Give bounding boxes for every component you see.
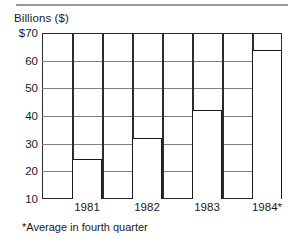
x-tick-label-1984: 1984* — [252, 201, 282, 213]
bar-1983 — [192, 110, 222, 199]
plot-area — [42, 33, 282, 199]
y-tick-label-40: 40 — [25, 110, 38, 122]
x-tick-label-1982: 1982 — [134, 201, 160, 213]
x-axis-tick-labels: 1981198219831984* — [42, 201, 282, 217]
y-tick-label-60: 60 — [25, 55, 38, 67]
chart-figure: Billions ($) 102030405060$70 19811982198… — [0, 0, 295, 245]
y-tick-label-20: 20 — [25, 165, 38, 177]
top-divider-rule — [16, 4, 288, 6]
chart-footnote: *Average in fourth quarter — [22, 221, 148, 233]
column-separator-6 — [222, 33, 224, 199]
x-tick-label-1983: 1983 — [194, 201, 220, 213]
bar-1984 — [252, 50, 282, 199]
y-axis-tick-labels: 102030405060$70 — [0, 33, 38, 199]
bar-1981 — [72, 159, 102, 199]
y-tick-label-30: 30 — [25, 138, 38, 150]
y-tick-label-10: 10 — [25, 193, 38, 205]
x-tick-label-1981: 1981 — [74, 201, 100, 213]
column-separator-4 — [162, 33, 164, 199]
y-tick-label-50: 50 — [25, 82, 38, 94]
bar-1982 — [132, 138, 162, 199]
y-axis-title: Billions ($) — [14, 12, 69, 24]
column-separator-2 — [102, 33, 104, 199]
y-tick-label-70: $70 — [19, 27, 38, 39]
